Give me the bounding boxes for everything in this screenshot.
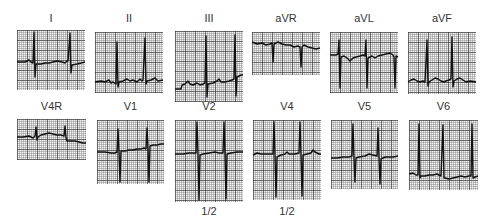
lead-label-III: III [175, 12, 243, 24]
lead-V1: V1 [97, 100, 164, 184]
lead-label-aVL: aVL [330, 12, 398, 24]
lead-V2: V2 [175, 100, 243, 202]
ecg-strip-I [17, 30, 85, 90]
lead-label-V4: V4 [253, 100, 321, 112]
ecg-strip-V4 [253, 120, 321, 200]
lead-V4R: V4R [17, 100, 86, 160]
ecg-strip-aVR [252, 32, 320, 75]
lead-aVR: aVR [252, 12, 320, 75]
ecg-trace-V4R [17, 119, 86, 160]
ecg-strip-V1 [97, 120, 164, 184]
ecg-strip-V5 [331, 120, 398, 189]
ecg-strip-V6 [409, 120, 478, 190]
ecg-trace-I [17, 30, 85, 90]
ecg-trace-aVR [252, 32, 320, 75]
lead-V4: V4 [253, 100, 321, 200]
lead-aVF: aVF [408, 12, 476, 94]
lead-aVL: aVL [330, 12, 398, 93]
ecg-strip-V4R [17, 119, 86, 160]
lead-label-V5: V5 [331, 100, 398, 112]
ecg-strip-III [175, 31, 243, 102]
lead-label-V6: V6 [409, 100, 478, 112]
ecg-trace-V4 [253, 120, 321, 200]
lead-label-V4R: V4R [17, 100, 86, 112]
ecg-strip-II [95, 32, 163, 93]
lead-V6: V6 [409, 100, 478, 190]
lead-label-V1: V1 [97, 100, 164, 112]
ecg-trace-V5 [331, 120, 398, 189]
scale-note-V2: 1/2 [175, 205, 243, 217]
ecg-strip-aVL [330, 32, 398, 93]
scale-note-V4: 1/2 [253, 205, 321, 217]
lead-V5: V5 [331, 100, 398, 189]
lead-I: I [17, 12, 85, 90]
lead-label-V2: V2 [175, 100, 243, 112]
ecg-trace-V6 [409, 120, 478, 190]
ecg-trace-III [175, 31, 243, 102]
ecg-strip-V2 [175, 120, 243, 202]
lead-label-aVR: aVR [252, 12, 320, 24]
lead-label-I: I [17, 12, 85, 24]
lead-label-aVF: aVF [408, 12, 476, 24]
lead-label-II: II [95, 12, 163, 24]
ecg-trace-II [95, 32, 163, 93]
ecg-trace-V1 [97, 120, 164, 184]
ecg-trace-V2 [175, 120, 243, 202]
ecg-trace-aVL [330, 32, 398, 93]
ecg-trace-aVF [408, 32, 476, 94]
ecg-strip-aVF [408, 32, 476, 94]
lead-III: III [175, 12, 243, 102]
lead-II: II [95, 12, 163, 93]
